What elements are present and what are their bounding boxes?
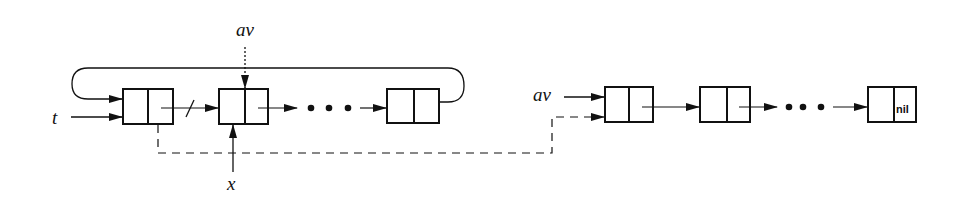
av-node-2 (700, 87, 750, 122)
label-av-right: av (533, 84, 552, 105)
label-t: t (52, 107, 58, 128)
linked-list-diagram: t av x (0, 0, 971, 209)
nil-label: nil (896, 103, 909, 115)
right-list: av nil (533, 84, 916, 122)
list-node-1 (123, 89, 173, 124)
label-x: x (226, 173, 236, 194)
label-av-top: av (236, 19, 255, 40)
left-list: t av x (52, 19, 464, 194)
ellipsis-dots (308, 105, 352, 112)
list-node-2 (219, 89, 268, 124)
av-node-nil: nil (868, 87, 916, 122)
ellipsis-dots (786, 104, 825, 111)
list-node-last (387, 89, 439, 123)
av-node-1 (605, 87, 653, 122)
